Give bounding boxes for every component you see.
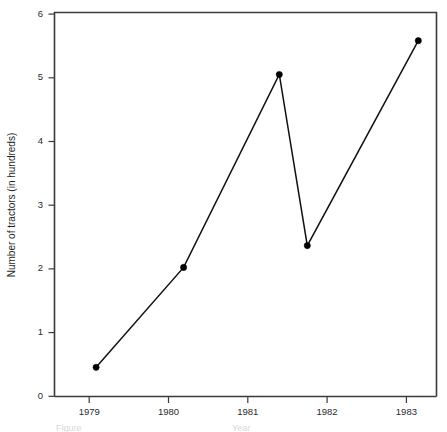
data-point-1979 xyxy=(93,364,99,370)
y-tick-label-6: 6 xyxy=(38,8,43,19)
y-tick-label-0: 0 xyxy=(38,390,43,401)
x-tick-label-1983: 1983 xyxy=(396,406,417,417)
plot-frame xyxy=(55,13,437,397)
y-axis-title: Number of tractors (in hundreds) xyxy=(6,133,17,278)
data-point-1980 xyxy=(181,264,187,270)
x-tick-label-1979: 1979 xyxy=(79,406,100,417)
line-chart: 0 1 2 3 4 5 6 1979 1980 1981 1982 1983 N… xyxy=(0,0,447,432)
clipped-caption-row: Figure Year xyxy=(56,423,250,432)
x-axis-ticks xyxy=(89,397,406,404)
y-tick-label-5: 5 xyxy=(38,71,43,82)
x-tick-label-1982: 1982 xyxy=(317,406,338,417)
data-point-1982-valley xyxy=(304,243,310,249)
clipped-caption-left: Figure xyxy=(56,423,82,432)
y-tick-label-3: 3 xyxy=(38,199,43,210)
y-tick-label-4: 4 xyxy=(38,135,43,146)
x-tick-label-1980: 1980 xyxy=(158,406,179,417)
x-axis-tick-labels: 1979 1980 1981 1982 1983 xyxy=(79,406,417,417)
figure-canvas: 0 1 2 3 4 5 6 1979 1980 1981 1982 1983 N… xyxy=(0,0,447,432)
clipped-caption-center: Year xyxy=(232,423,250,432)
data-point-1981-peak xyxy=(276,71,282,77)
data-point-1983 xyxy=(415,38,421,44)
series-markers xyxy=(93,38,421,371)
y-tick-label-1: 1 xyxy=(38,326,43,337)
series-line-number-of-tractors xyxy=(96,41,418,368)
y-axis-tick-labels: 0 1 2 3 4 5 6 xyxy=(38,8,43,401)
x-tick-label-1981: 1981 xyxy=(237,406,258,417)
y-tick-label-2: 2 xyxy=(38,262,43,273)
y-axis-ticks xyxy=(49,14,55,396)
